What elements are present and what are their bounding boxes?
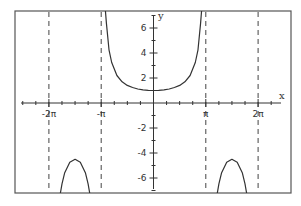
y-tick-label: 6: [141, 23, 147, 33]
y-tick-label: -4: [138, 148, 147, 158]
x-axis-label: x: [279, 90, 285, 101]
y-tick-label: -6: [138, 173, 147, 183]
x-tick-label: -2π: [42, 109, 57, 119]
x-tick-label: -π: [97, 109, 106, 119]
y-tick-label: 2: [141, 73, 147, 83]
y-tick-label: 4: [141, 48, 147, 58]
x-tick-label: π: [203, 109, 209, 119]
y-axis-label: y: [157, 10, 164, 21]
function-plot: -2π-ππ2π642-2-4-6 x y: [0, 0, 301, 206]
y-tick-label: -2: [138, 123, 147, 133]
x-tick-label: 2π: [253, 109, 265, 119]
